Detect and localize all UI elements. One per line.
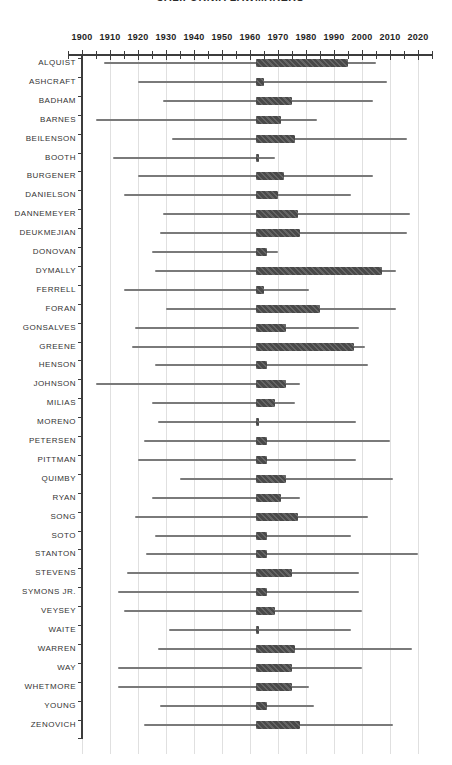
row-label: BOOTH <box>0 153 76 162</box>
y-tick <box>78 663 82 664</box>
lifespan-line <box>169 629 351 631</box>
y-tick <box>78 342 82 343</box>
row-label: WARREN <box>0 644 76 653</box>
x-tick-label: 1940 <box>179 32 209 42</box>
row-label: HENSON <box>0 360 76 369</box>
lifespan-line <box>180 478 393 480</box>
y-tick <box>78 228 82 229</box>
row-label: DEUKMEJIAN <box>0 228 76 237</box>
row-label: ASHCRAFT <box>0 77 76 86</box>
tenure-bar <box>256 172 284 180</box>
row-label: QUIMBY <box>0 474 76 483</box>
tenure-bar <box>256 588 267 596</box>
y-tick <box>78 171 82 172</box>
y-tick <box>78 549 82 550</box>
x-tick-label: 1990 <box>319 32 349 42</box>
row-label: GONSALVES <box>0 323 76 332</box>
tenure-bar <box>256 437 267 445</box>
y-tick <box>78 115 82 116</box>
y-tick <box>78 474 82 475</box>
x-tick-label: 1930 <box>151 32 181 42</box>
y-tick <box>78 190 82 191</box>
y-tick <box>78 720 82 721</box>
y-tick <box>78 606 82 607</box>
tenure-bar <box>256 645 295 653</box>
gridline <box>418 55 419 754</box>
tenure-bar <box>256 494 281 502</box>
tenure-bar <box>256 97 292 105</box>
lifespan-line <box>118 667 362 669</box>
row-label: WAY <box>0 663 76 672</box>
y-tick <box>78 247 82 248</box>
y-tick <box>78 398 82 399</box>
y-tick <box>78 323 82 324</box>
x-tick-label: 1910 <box>95 32 125 42</box>
row-label: BEILENSON <box>0 134 76 143</box>
lifespan-line <box>146 553 418 555</box>
row-label: ALQUIST <box>0 58 76 67</box>
lifespan-line <box>124 610 362 612</box>
tenure-bar <box>256 361 267 369</box>
tenure-bar <box>256 286 264 294</box>
x-tick <box>432 51 433 59</box>
row-label: ZENOVICH <box>0 720 76 729</box>
tenure-bar <box>256 664 292 672</box>
row-label: MORENO <box>0 417 76 426</box>
lifespan-line <box>138 459 356 461</box>
tenure-bar <box>256 532 267 540</box>
x-tick-label: 2000 <box>347 32 377 42</box>
tenure-bar <box>256 78 264 86</box>
tenure-bar <box>256 248 267 256</box>
row-label: YOUNG <box>0 701 76 710</box>
lawmaker-timeline-chart: CALIFORNIA LAWMAKERS 1900191019201930194… <box>0 0 452 765</box>
y-tick <box>78 436 82 437</box>
y-tick <box>78 77 82 78</box>
lifespan-line <box>124 194 351 196</box>
y-tick <box>78 134 82 135</box>
row-label: DANNEMEYER <box>0 209 76 218</box>
y-tick <box>78 58 82 59</box>
y-tick <box>78 153 82 154</box>
y-tick <box>78 417 82 418</box>
row-label: BARNES <box>0 115 76 124</box>
y-tick <box>78 531 82 532</box>
row-label: FERRELL <box>0 285 76 294</box>
chart-title: CALIFORNIA LAWMAKERS <box>8 0 452 3</box>
tenure-bar <box>256 210 298 218</box>
row-label: FORAN <box>0 304 76 313</box>
gridline <box>138 55 139 754</box>
tenure-bar <box>256 399 276 407</box>
y-tick <box>78 209 82 210</box>
row-label: SYMONS JR. <box>0 587 76 596</box>
y-tick <box>78 738 82 739</box>
lifespan-line <box>135 516 367 518</box>
y-tick <box>78 360 82 361</box>
row-label: DANIELSON <box>0 190 76 199</box>
y-tick <box>78 587 82 588</box>
row-label: PITTMAN <box>0 455 76 464</box>
tenure-bar <box>256 380 287 388</box>
tenure-bar <box>256 702 267 710</box>
tenure-bar <box>256 191 278 199</box>
lifespan-line <box>96 119 317 121</box>
x-tick-label: 1970 <box>263 32 293 42</box>
row-label: STANTON <box>0 549 76 558</box>
y-tick <box>78 304 82 305</box>
tenure-bar <box>256 267 382 275</box>
row-label: VEYSEY <box>0 606 76 615</box>
lifespan-line <box>135 327 359 329</box>
tenure-bar <box>256 513 298 521</box>
row-label: GREENE <box>0 342 76 351</box>
x-tick-label: 1950 <box>207 32 237 42</box>
tenure-bar <box>256 475 287 483</box>
y-tick <box>78 644 82 645</box>
row-label: SONG <box>0 512 76 521</box>
tenure-bar <box>256 229 301 237</box>
row-label: DONOVAN <box>0 247 76 256</box>
row-label: SOTO <box>0 531 76 540</box>
y-tick <box>78 285 82 286</box>
tenure-bar <box>256 154 259 162</box>
lifespan-line <box>127 572 359 574</box>
lifespan-line <box>118 591 359 593</box>
tenure-bar <box>256 607 276 615</box>
